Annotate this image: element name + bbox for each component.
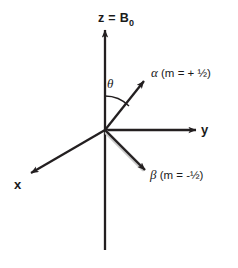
z-axis-label: z = B0 (98, 12, 134, 28)
y-axis-label: y (201, 123, 208, 136)
z-axis-label-text: z = B (98, 11, 129, 25)
spin-vector-diagram: z = B0 y x θ α (m = + ½) β (m = -½) (0, 0, 238, 268)
beta-quantum-number-text: (m = -½) (156, 169, 203, 181)
z-axis-label-subscript: 0 (129, 18, 134, 28)
x-axis-line (31, 130, 105, 173)
alpha-state-label: α (m = + ½) (151, 66, 211, 80)
beta-vector-line (105, 130, 145, 170)
alpha-quantum-number-text: (m = + ½) (158, 67, 211, 79)
alpha-greek-symbol: α (151, 65, 158, 80)
x-axis-label: x (14, 178, 21, 191)
beta-state-label: β (m = -½) (150, 168, 203, 182)
theta-angle-label: θ (107, 77, 113, 90)
